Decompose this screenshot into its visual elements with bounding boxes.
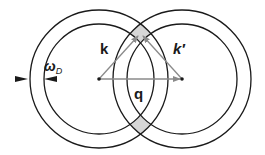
diagram-canvas [0, 0, 265, 155]
omega-arrow-outer-icon [15, 76, 28, 82]
left-center-dot [97, 77, 101, 81]
label-omega-d: ωD [44, 58, 62, 76]
label-k-prime: k′ [173, 40, 185, 57]
omega-arrow-inner-icon [44, 76, 57, 82]
shaded-region-bottom [131, 116, 150, 135]
label-k: k [100, 40, 108, 57]
shaded-region-top [131, 24, 150, 43]
fermi-sphere-scattering-diagram: k k′ q ωD [0, 0, 265, 155]
omega-symbol: ω [44, 58, 56, 74]
label-q: q [134, 85, 143, 102]
omega-subscript: D [56, 66, 63, 76]
right-center-dot [180, 77, 184, 81]
